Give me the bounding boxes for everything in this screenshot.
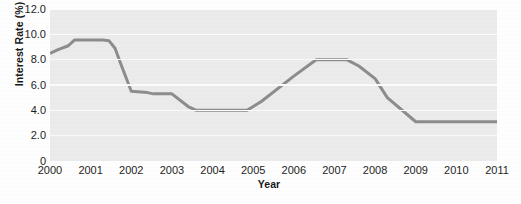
interest-rate-line-chart: 12.010.08.06.04.02.00 Interest Rate (%) … (0, 0, 521, 204)
x-axis-tick-label: 2011 (469, 165, 521, 176)
x-axis-tick-labels: 2000200120022003200420052006200720082009… (0, 0, 521, 204)
x-axis-title-text: Year (258, 178, 281, 190)
x-axis-title: Year (0, 178, 521, 190)
